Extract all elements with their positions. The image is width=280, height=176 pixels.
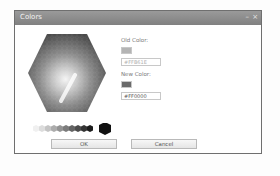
hexagon-color-picker[interactable]	[27, 33, 107, 113]
close-icon[interactable]: ×	[252, 12, 258, 22]
new-color-hex-input[interactable]: #FF0000	[121, 92, 161, 100]
selected-swatch[interactable]	[99, 123, 111, 135]
grayscale-swatch-row[interactable]	[33, 123, 115, 139]
dialog-title: Colors	[20, 13, 42, 21]
old-color-swatch	[121, 47, 132, 54]
colors-dialog: Colors – × Old Color: #FFB61E New Color:…	[14, 10, 262, 154]
old-color-label: Old Color:	[121, 37, 148, 43]
new-color-swatch	[121, 81, 132, 88]
title-bar[interactable]: Colors – ×	[15, 11, 261, 25]
new-color-label: New Color:	[121, 71, 151, 77]
cancel-button[interactable]: Cancel	[131, 139, 197, 149]
minimize-icon[interactable]: –	[246, 12, 250, 22]
ok-button[interactable]: OK	[51, 139, 117, 149]
old-color-hex-field: #FFB61E	[121, 58, 161, 66]
